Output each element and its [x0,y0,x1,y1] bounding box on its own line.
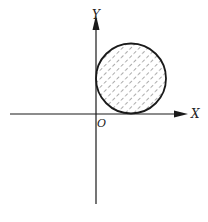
coordinate-diagram: Y X O [0,0,208,222]
y-axis [93,15,100,204]
y-axis-label: Y [92,8,101,22]
shaded-circle [96,44,166,114]
origin-label: O [97,117,106,130]
x-axis-arrowhead-icon [174,111,188,118]
x-axis-label: X [190,107,200,121]
